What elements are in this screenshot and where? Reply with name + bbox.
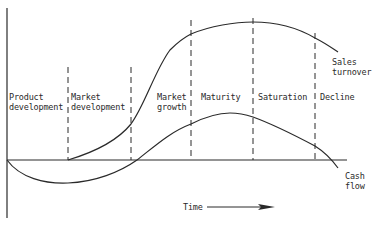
stage-dividers bbox=[68, 18, 315, 160]
stage-label-saturation: Saturation bbox=[258, 92, 307, 102]
sales-turnover-curve bbox=[68, 22, 338, 160]
cash-flow-label: Cashflow bbox=[345, 171, 365, 191]
stage-label-product-development: Productdevelopment bbox=[9, 92, 63, 112]
life-cycle-diagram: Productdevelopment Marketdevelopment Mar… bbox=[0, 0, 377, 227]
stage-label-decline: Decline bbox=[320, 92, 354, 102]
cash-flow-curve bbox=[7, 113, 338, 183]
diagram-graphics bbox=[0, 0, 377, 227]
sales-turnover-label: Salesturnover bbox=[332, 57, 371, 77]
stage-label-maturity: Maturity bbox=[201, 92, 240, 102]
stage-label-market-growth: Marketgrowth bbox=[157, 92, 187, 112]
stage-label-market-development: Marketdevelopment bbox=[71, 92, 125, 112]
time-axis-label: Time bbox=[183, 202, 203, 212]
